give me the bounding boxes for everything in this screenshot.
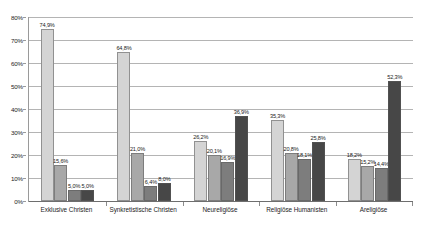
bar-value-label: 18,1% bbox=[297, 152, 312, 158]
bar[interactable] bbox=[54, 165, 67, 201]
bar[interactable] bbox=[361, 166, 374, 201]
y-axis: 0%10%20%30%40%50%60%70%80% bbox=[0, 0, 26, 236]
category-tick bbox=[412, 202, 413, 206]
y-tick-label: 10% bbox=[11, 175, 23, 182]
bar[interactable] bbox=[312, 142, 325, 201]
bar[interactable] bbox=[158, 183, 171, 201]
bar[interactable] bbox=[285, 153, 298, 201]
bar-wrap: 25,8% bbox=[312, 16, 325, 201]
bar[interactable] bbox=[68, 190, 81, 202]
y-tick-label: 40% bbox=[11, 106, 23, 113]
bar-wrap: 15,2% bbox=[361, 16, 374, 201]
bar[interactable] bbox=[221, 162, 234, 201]
y-tick-mark bbox=[23, 132, 26, 133]
bar-value-label: 20,8% bbox=[283, 146, 298, 152]
bar-value-label: 14,4% bbox=[374, 161, 389, 167]
bar-value-label: 52,3% bbox=[387, 74, 402, 80]
bar-value-label: 18,2% bbox=[347, 152, 362, 158]
bar-chart: 0%10%20%30%40%50%60%70%80% 74,9%15,6%5,0… bbox=[0, 0, 424, 236]
bar[interactable] bbox=[235, 116, 248, 201]
x-axis-baseline bbox=[29, 201, 413, 202]
bar[interactable] bbox=[375, 168, 388, 201]
bar[interactable] bbox=[271, 120, 284, 201]
bar-wrap: 26,2% bbox=[194, 16, 207, 201]
y-tick-label: 80% bbox=[11, 14, 23, 21]
y-tick-mark bbox=[23, 17, 26, 18]
bar-value-label: 21,0% bbox=[130, 146, 145, 152]
y-tick-mark bbox=[23, 178, 26, 179]
bar-wrap: 14,4% bbox=[375, 16, 388, 201]
y-tick-label: 0% bbox=[14, 198, 23, 205]
plot-area: 74,9%15,6%5,0%5,0%64,8%21,0%6,4%8,0%26,2… bbox=[28, 17, 412, 202]
y-tick-label: 70% bbox=[11, 37, 23, 44]
bar-group: 26,2%20,1%16,9%36,9% bbox=[194, 17, 248, 201]
y-tick-label: 50% bbox=[11, 83, 23, 90]
bar[interactable] bbox=[194, 141, 207, 201]
bar-value-label: 16,9% bbox=[220, 155, 235, 161]
category-label: Synkretistische Christen bbox=[110, 206, 177, 213]
bar-group: 74,9%15,6%5,0%5,0% bbox=[41, 17, 95, 201]
y-tick-label: 60% bbox=[11, 60, 23, 67]
x-axis-category-labels: Exklusive ChristenSynkretistische Christ… bbox=[28, 206, 412, 226]
y-tick-mark bbox=[23, 86, 26, 87]
bar-group: 18,2%15,2%14,4%52,3% bbox=[348, 17, 402, 201]
bar-value-label: 8,0% bbox=[158, 176, 170, 182]
bar-wrap: 36,9% bbox=[235, 16, 248, 201]
bar-wrap: 8,0% bbox=[158, 16, 171, 201]
y-tick-mark bbox=[23, 63, 26, 64]
bar-wrap: 20,8% bbox=[285, 16, 298, 201]
bar-value-label: 74,9% bbox=[40, 22, 55, 28]
bar-value-label: 5,0% bbox=[68, 183, 80, 189]
bar-value-label: 26,2% bbox=[193, 134, 208, 140]
bar[interactable] bbox=[81, 190, 94, 202]
bar[interactable] bbox=[131, 153, 144, 201]
bar[interactable] bbox=[144, 186, 157, 201]
category-label: Exklusive Christen bbox=[41, 206, 93, 213]
bar-value-label: 15,6% bbox=[53, 158, 68, 164]
bar-value-label: 36,9% bbox=[234, 109, 249, 115]
bar-wrap: 6,4% bbox=[144, 16, 157, 201]
bar-wrap: 74,9% bbox=[41, 16, 54, 201]
category-label: Areligiöse bbox=[360, 206, 388, 213]
y-tick-mark bbox=[23, 201, 26, 202]
y-tick-mark bbox=[23, 109, 26, 110]
bar[interactable] bbox=[298, 159, 311, 201]
bar-value-label: 6,4% bbox=[145, 179, 157, 185]
bar-value-label: 20,1% bbox=[207, 148, 222, 154]
bar-wrap: 18,1% bbox=[298, 16, 311, 201]
bar-wrap: 64,8% bbox=[117, 16, 130, 201]
bar-value-label: 35,3% bbox=[270, 113, 285, 119]
y-tick-label: 30% bbox=[11, 129, 23, 136]
bar-wrap: 5,0% bbox=[68, 16, 81, 201]
bar[interactable] bbox=[208, 155, 221, 201]
bar-wrap: 35,3% bbox=[271, 16, 284, 201]
bar-wrap: 18,2% bbox=[348, 16, 361, 201]
y-tick-mark bbox=[23, 155, 26, 156]
category-label: Religiöse Humanisten bbox=[266, 206, 327, 213]
bar-group: 64,8%21,0%6,4%8,0% bbox=[117, 17, 171, 201]
y-tick-label: 20% bbox=[11, 152, 23, 159]
bar-value-label: 5,0% bbox=[82, 183, 94, 189]
bar[interactable] bbox=[117, 52, 130, 201]
bar-wrap: 5,0% bbox=[81, 16, 94, 201]
bar-wrap: 21,0% bbox=[131, 16, 144, 201]
bar-value-label: 64,8% bbox=[116, 45, 131, 51]
bar[interactable] bbox=[41, 29, 54, 201]
bar-wrap: 16,9% bbox=[221, 16, 234, 201]
bar-group: 35,3%20,8%18,1%25,8% bbox=[271, 17, 325, 201]
bar-wrap: 52,3% bbox=[388, 16, 401, 201]
bar-wrap: 15,6% bbox=[54, 16, 67, 201]
bar[interactable] bbox=[348, 159, 361, 201]
y-tick-mark bbox=[23, 40, 26, 41]
bar[interactable] bbox=[388, 81, 401, 201]
category-label: Neureligiöse bbox=[203, 206, 238, 213]
bar-wrap: 20,1% bbox=[208, 16, 221, 201]
bar-value-label: 25,8% bbox=[310, 135, 325, 141]
